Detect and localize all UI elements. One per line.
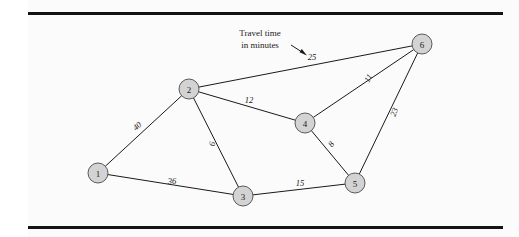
edge-4-5: [311, 131, 348, 176]
edges-group: [105, 46, 417, 195]
annotation-line-2: in minutes: [241, 40, 279, 50]
edge-weight-4-6: 11: [362, 72, 375, 84]
edge-labels-group: 4036612251581123: [130, 52, 400, 188]
node-2: 2: [179, 79, 199, 99]
travel-time-annotation: Travel time in minutes: [239, 28, 307, 56]
node-3: 3: [233, 186, 253, 206]
edge-1-2: [105, 96, 181, 166]
edge-weight-3-5: 15: [296, 178, 305, 188]
node-5: 5: [345, 173, 365, 193]
annotation-line-1: Travel time: [239, 28, 280, 38]
node-label-3: 3: [241, 192, 246, 202]
node-label-4: 4: [303, 119, 308, 129]
edge-weight-2-4: 12: [245, 95, 254, 105]
annotation-arrowhead: [300, 49, 308, 56]
node-label-6: 6: [420, 40, 425, 50]
edge-2-6: [199, 46, 412, 87]
node-6: 6: [412, 34, 432, 54]
nodes-group: 123456: [88, 34, 432, 206]
node-label-2: 2: [187, 85, 192, 95]
edge-weight-1-2: 40: [130, 119, 144, 133]
edge-4-6: [313, 50, 413, 118]
network-graph: 4036612251581123 123456 Travel time in m…: [0, 0, 519, 237]
node-label-1: 1: [96, 169, 101, 179]
edge-weight-5-6: 23: [388, 106, 400, 117]
edge-2-3: [194, 98, 239, 187]
edge-weight-1-3: 36: [167, 176, 177, 186]
edge-weight-4-5: 8: [326, 139, 337, 149]
node-1: 1: [88, 163, 108, 183]
node-label-5: 5: [353, 179, 358, 189]
node-4: 4: [295, 113, 315, 133]
figure-page: 4036612251581123 123456 Travel time in m…: [0, 0, 519, 237]
edge-weight-2-6: 25: [308, 52, 317, 62]
